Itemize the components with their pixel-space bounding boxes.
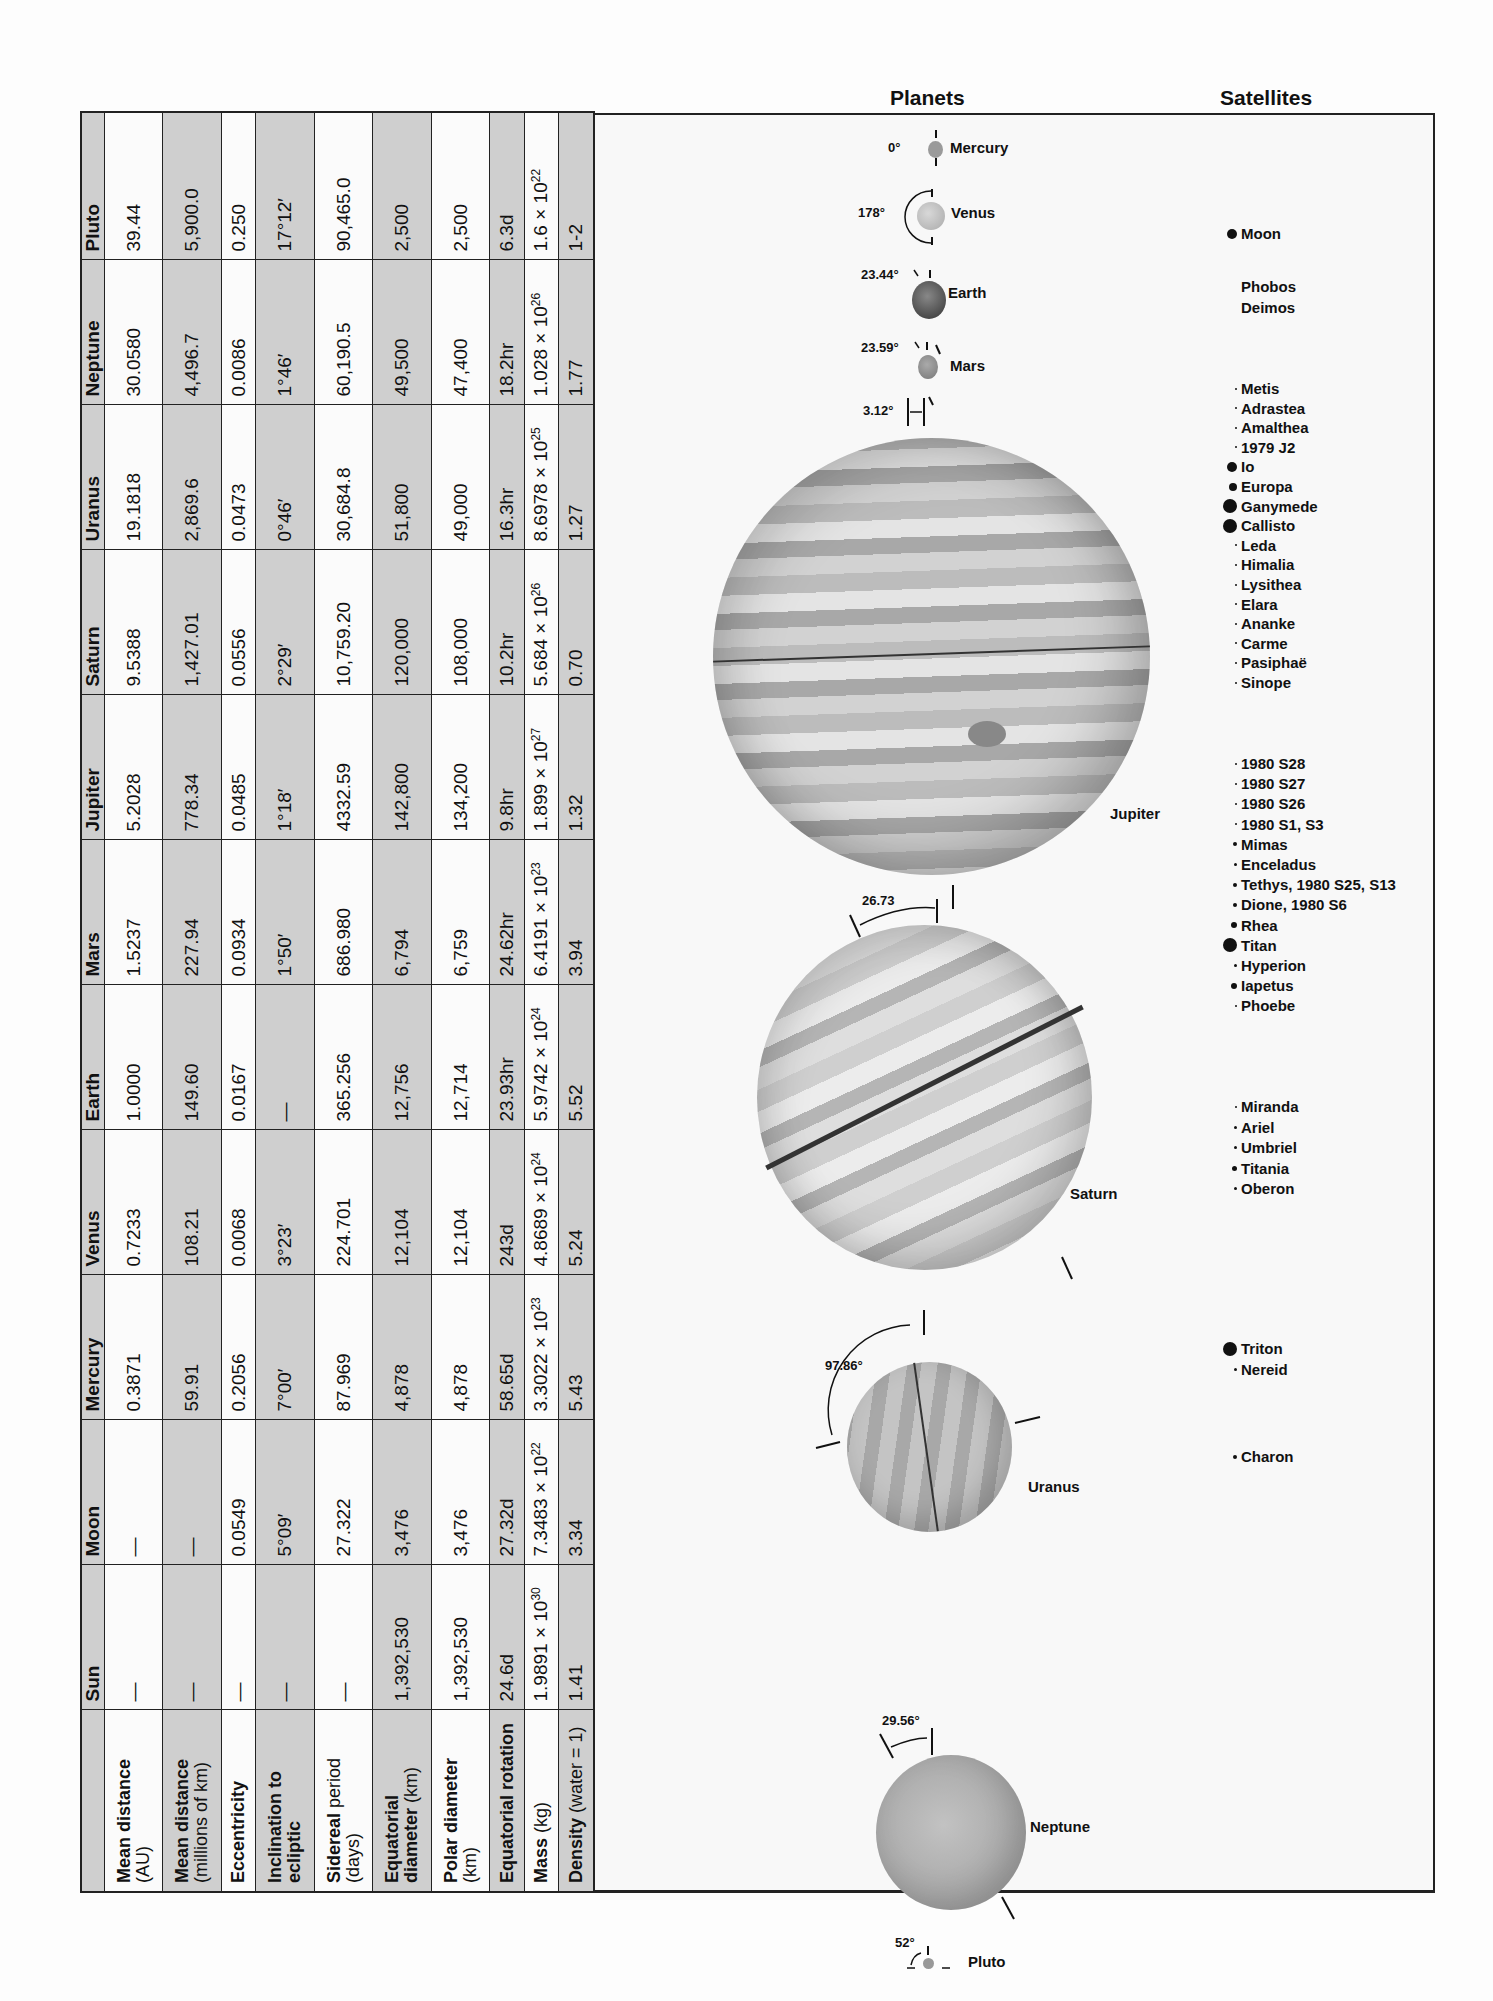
table-cell: 1-2 xyxy=(559,112,594,260)
satellite-size-dot-icon xyxy=(1235,662,1237,664)
satellite-name: Rhea xyxy=(1241,917,1278,934)
row-unit: (km) xyxy=(460,1847,480,1883)
table-cell: 5°09′ xyxy=(256,1420,314,1565)
row-header: Equatorial diameter (km) xyxy=(373,1710,431,1892)
table-cell: 6.4191 × 1023 xyxy=(524,840,558,985)
satellite-size-dot-icon xyxy=(1233,903,1237,907)
table-cell: 149.60 xyxy=(163,985,221,1130)
table-cell: 5,900.0 xyxy=(163,112,221,260)
col-mercury: Mercury xyxy=(81,1275,105,1420)
satellite-item: Amalthea xyxy=(1215,419,1309,436)
satellite-name: Adrastea xyxy=(1241,400,1305,417)
satellite-item: Pasiphaë xyxy=(1215,654,1307,671)
satellite-item: Titania xyxy=(1215,1160,1289,1177)
satellite-item: Lysithea xyxy=(1215,576,1301,593)
uranus-label: Uranus xyxy=(1028,1478,1080,1495)
satellite-item: Rhea xyxy=(1215,917,1278,934)
table-cell: 686.980 xyxy=(314,840,372,985)
satellite-size-dot-icon xyxy=(1234,1187,1237,1190)
satellite-name: Phobos xyxy=(1241,278,1296,295)
satellite-item: 1980 S26 xyxy=(1215,795,1305,812)
satellite-size-dot-icon xyxy=(1234,1126,1237,1129)
mercury-globe xyxy=(928,141,943,158)
table-cell: 12,756 xyxy=(373,985,431,1130)
satellite-item: Triton xyxy=(1215,1340,1283,1357)
table-cell: 1.6 × 1022 xyxy=(524,112,558,260)
saturn-globe xyxy=(757,925,1092,1270)
satellite-name: Enceladus xyxy=(1241,856,1316,873)
table-cell: 227.94 xyxy=(163,840,221,985)
row-header: Mean distance (millions of km) xyxy=(163,1710,221,1892)
table-cell: 10.2hr xyxy=(490,550,524,695)
satellite-item: Iapetus xyxy=(1215,977,1294,994)
table-cell: 0.0086 xyxy=(221,260,255,405)
row-header: Equatorial rotation xyxy=(490,1710,524,1892)
neptune-axis-lower-icon xyxy=(1000,1895,1020,1925)
satellite-name: Nereid xyxy=(1241,1361,1288,1378)
table-cell: 17°12′ xyxy=(256,112,314,260)
satellite-size-dot-icon xyxy=(1231,922,1237,928)
satellite-name: Carme xyxy=(1241,635,1288,652)
table-cell: 0°46′ xyxy=(256,405,314,550)
col-mars: Mars xyxy=(81,840,105,985)
satellite-item: Mimas xyxy=(1215,836,1288,853)
table-cell: 60,190.5 xyxy=(314,260,372,405)
neptune-globe xyxy=(876,1755,1026,1910)
satellite-size-dot-icon xyxy=(1234,964,1237,967)
satellite-item: Charon xyxy=(1215,1448,1294,1465)
neptune-tilt: 29.56° xyxy=(882,1713,920,1728)
row-header: Mean distance (AU) xyxy=(105,1710,163,1892)
table-cell: 0.0473 xyxy=(221,405,255,550)
satellite-item: Nereid xyxy=(1215,1361,1288,1378)
col-moon: Moon xyxy=(81,1420,105,1565)
table-cell: — xyxy=(105,1565,163,1710)
satellite-item: Ganymede xyxy=(1215,498,1318,515)
uranus-tilt: 97.86° xyxy=(825,1358,863,1373)
table-cell: 778.34 xyxy=(163,695,221,840)
row-unit: (kg) xyxy=(531,1802,551,1833)
table-cell: — xyxy=(163,1420,221,1565)
table-row: Density (water = 1)1.413.345.435.245.523… xyxy=(559,112,594,1892)
satellite-size-dot-icon xyxy=(1235,427,1237,429)
satellite-item: 1980 S1, S3 xyxy=(1215,816,1324,833)
satellite-size-dot-icon xyxy=(1235,1106,1237,1108)
pluto-axis-icon xyxy=(907,1943,957,1973)
table-cell: 24.6d xyxy=(490,1565,524,1710)
satellite-name: Himalia xyxy=(1241,556,1294,573)
table-cell: 5.2028 xyxy=(105,695,163,840)
earth-label: Earth xyxy=(948,284,986,301)
uranus-axis-right-icon xyxy=(1015,1415,1045,1425)
satellite-item: Dione, 1980 S6 xyxy=(1215,896,1347,913)
satellite-name: Sinope xyxy=(1241,674,1291,691)
col-saturn: Saturn xyxy=(81,550,105,695)
satellite-item: Tethys, 1980 S25, S13 xyxy=(1215,876,1396,893)
satellite-size-dot-icon xyxy=(1235,783,1237,785)
earth-globe xyxy=(912,281,946,319)
row-label: Equatorial diameter xyxy=(382,1795,421,1883)
table-cell: 134,200 xyxy=(431,695,489,840)
row-header: Sidereal period (days) xyxy=(314,1710,372,1892)
satellite-item: Titan xyxy=(1215,937,1277,954)
satellite-item: Metis xyxy=(1215,380,1279,397)
table-cell: 27.322 xyxy=(314,1420,372,1565)
satellite-size-dot-icon xyxy=(1227,229,1237,239)
table-cell: 4,496.7 xyxy=(163,260,221,405)
table-cell: 59.91 xyxy=(163,1275,221,1420)
table-cell: 23.93hr xyxy=(490,985,524,1130)
table-cell: 5.684 × 1026 xyxy=(524,550,558,695)
table-cell: 47,400 xyxy=(431,260,489,405)
saturn-ring-line xyxy=(765,1005,1084,1171)
satellite-item: Elara xyxy=(1215,596,1278,613)
table-cell: 87.969 xyxy=(314,1275,372,1420)
table-cell: 6,759 xyxy=(431,840,489,985)
satellite-name: Hyperion xyxy=(1241,957,1306,974)
satellite-name: Umbriel xyxy=(1241,1139,1297,1156)
satellite-size-dot-icon xyxy=(1235,1005,1237,1007)
table-cell: 1,427.01 xyxy=(163,550,221,695)
table-cell: 4,878 xyxy=(431,1275,489,1420)
table-cell: 9.8hr xyxy=(490,695,524,840)
satellite-name: Ariel xyxy=(1241,1119,1274,1136)
satellite-name: 1980 S28 xyxy=(1241,755,1305,772)
satellite-size-dot-icon xyxy=(1235,623,1237,625)
table-cell: 24.62hr xyxy=(490,840,524,985)
